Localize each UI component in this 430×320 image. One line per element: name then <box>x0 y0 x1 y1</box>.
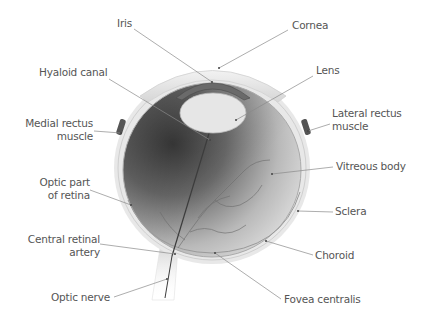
label-line-1: Optic part <box>20 176 90 189</box>
label-optic-retina: Optic part of retina <box>20 176 90 201</box>
label-vitreous-body: Vitreous body <box>336 160 406 173</box>
label-medial-rectus: Medial rectus muscle <box>20 117 93 142</box>
label-line-2: muscle <box>20 130 93 143</box>
label-hyaloid-canal: Hyaloid canal <box>39 66 107 79</box>
label-lens: Lens <box>316 64 339 77</box>
label-line-1: Medial rectus <box>20 117 93 130</box>
label-line-2: muscle <box>332 120 402 133</box>
label-cornea: Cornea <box>292 19 328 32</box>
label-fovea-centralis: Fovea centralis <box>284 293 361 306</box>
label-iris: Iris <box>117 17 132 30</box>
label-line-1: Lateral rectus <box>332 107 402 120</box>
lens-shape <box>180 93 246 133</box>
label-choroid: Choroid <box>315 249 354 262</box>
label-optic-nerve: Optic nerve <box>51 291 110 304</box>
label-central-retinal-artery: Central retinal artery <box>14 233 100 258</box>
label-line-2: artery <box>14 246 100 259</box>
label-line-2: of retina <box>20 189 90 202</box>
label-sclera: Sclera <box>335 205 366 218</box>
label-lateral-rectus: Lateral rectus muscle <box>332 107 402 132</box>
label-line-1: Central retinal <box>14 233 100 246</box>
